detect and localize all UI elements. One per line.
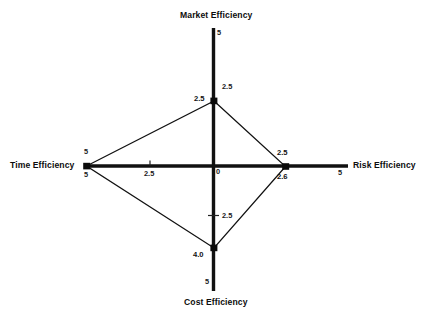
series-polygon bbox=[87, 101, 286, 248]
origin-label: 0 bbox=[216, 167, 220, 176]
tick-label-market-max: 5 bbox=[217, 28, 221, 37]
data-label-risk: 2.6 bbox=[277, 172, 288, 181]
tick-label-time-max-upper: 5 bbox=[84, 147, 88, 156]
tick-label-time-max-lower: 5 bbox=[84, 170, 88, 179]
tick-label-cost-mid: 2.5 bbox=[222, 211, 232, 220]
axis-title-risk: Risk Efficiency bbox=[353, 160, 416, 170]
data-label-cost: 4.0 bbox=[193, 250, 204, 259]
tick-label-time-mid: 2.5 bbox=[144, 169, 154, 178]
tick-label-market-mid: 2.5 bbox=[222, 82, 232, 91]
tick-label-cost-max: 5 bbox=[205, 277, 209, 286]
axis-title-time: Time Efficiency bbox=[10, 160, 74, 170]
radar-chart: Market Efficiency Risk Efficiency Cost E… bbox=[0, 0, 429, 320]
data-point-marker-risk bbox=[282, 163, 289, 170]
data-label-market: 2.5 bbox=[194, 94, 205, 103]
data-point-marker-cost bbox=[210, 245, 217, 252]
data-point-marker-market bbox=[210, 98, 217, 105]
data-point-marker-time bbox=[83, 163, 90, 170]
data-label-risk-upper: 2.5 bbox=[277, 148, 288, 157]
axis-title-market: Market Efficiency bbox=[180, 10, 252, 20]
tick-label-risk-max: 5 bbox=[338, 168, 342, 177]
axis-title-cost: Cost Efficiency bbox=[184, 297, 248, 307]
